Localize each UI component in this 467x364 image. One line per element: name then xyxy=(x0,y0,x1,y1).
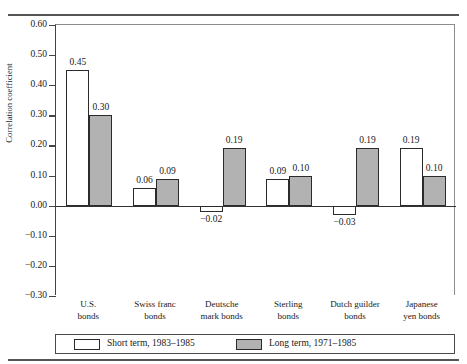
y-tick-label: −0.30 xyxy=(25,291,47,301)
bottom-rule xyxy=(8,359,459,361)
x-axis-label: Swiss francbonds xyxy=(134,299,176,322)
x-axis-label: Deutschemark bonds xyxy=(201,299,243,322)
legend-swatch xyxy=(74,339,100,350)
x-axis-label: Sterlingbonds xyxy=(274,299,303,322)
y-tick-label: 0.40 xyxy=(30,80,47,90)
y-tick-label: 0.30 xyxy=(30,111,47,121)
x-axis-labels: U.S.bondsSwiss francbondsDeutschemark bo… xyxy=(55,299,455,327)
bar-group: 0.060.09 xyxy=(123,25,190,296)
plot-area: 0.600.500.400.300.200.100.00−0.10−0.20−0… xyxy=(55,24,455,295)
bar[interactable] xyxy=(89,115,112,205)
bar-value-label: −0.02 xyxy=(200,215,222,225)
bar-value-label: 0.09 xyxy=(159,167,176,177)
bar-group: 0.450.30 xyxy=(56,25,123,296)
bar[interactable] xyxy=(333,206,356,215)
bar-value-label: 0.30 xyxy=(93,103,110,113)
y-tick-label: 0.60 xyxy=(30,20,47,30)
y-tick-mark xyxy=(49,236,56,237)
y-tick-mark xyxy=(49,266,56,267)
bar[interactable] xyxy=(133,188,156,206)
bar[interactable] xyxy=(223,148,246,205)
bar-group: −0.030.19 xyxy=(323,25,390,296)
y-tick-label: 0.20 xyxy=(30,141,47,151)
bar[interactable] xyxy=(423,176,446,206)
top-rule xyxy=(8,14,459,16)
bar[interactable] xyxy=(400,148,423,205)
y-tick-mark xyxy=(49,176,56,177)
bar-value-label: 0.09 xyxy=(270,167,287,177)
y-tick-label: −0.20 xyxy=(25,261,47,271)
bar-group: 0.090.10 xyxy=(256,25,323,296)
y-tick-mark xyxy=(49,145,56,146)
figure: Correlation coefficient 0.600.500.400.30… xyxy=(0,0,467,364)
x-axis-label: Dutch guilderbonds xyxy=(330,299,380,322)
legend-label: Long term, 1971–1985 xyxy=(269,339,356,349)
bar-value-label: 0.10 xyxy=(293,164,310,174)
bar[interactable] xyxy=(266,179,289,206)
bar[interactable] xyxy=(200,206,223,212)
y-tick-mark xyxy=(49,115,56,116)
bar[interactable] xyxy=(156,179,179,206)
y-tick-label: −0.10 xyxy=(25,231,47,241)
bar-value-label: 0.45 xyxy=(70,58,87,68)
y-tick-label: 0.50 xyxy=(30,50,47,60)
y-tick-mark xyxy=(49,85,56,86)
legend-item[interactable]: Short term, 1983–1985 xyxy=(74,339,195,350)
bar-group: 0.190.10 xyxy=(389,25,456,296)
bar-value-label: 0.06 xyxy=(136,176,153,186)
y-tick-mark xyxy=(49,55,56,56)
bar-value-label: 0.19 xyxy=(359,136,376,146)
x-axis-label: Japaneseyen bonds xyxy=(403,299,440,322)
bar[interactable] xyxy=(66,70,89,206)
bar[interactable] xyxy=(356,148,379,205)
bar-value-label: 0.10 xyxy=(426,164,443,174)
bar-value-label: −0.03 xyxy=(333,218,355,228)
bars-layer: 0.450.300.060.09−0.020.190.090.10−0.030.… xyxy=(56,25,456,296)
y-tick-label: 0.00 xyxy=(30,201,47,211)
bar-value-label: 0.19 xyxy=(226,136,243,146)
x-axis-label: U.S.bonds xyxy=(78,299,100,322)
y-tick-mark xyxy=(49,206,56,207)
y-axis-title: Correlation coefficient xyxy=(4,43,14,163)
y-tick-label: 0.10 xyxy=(30,171,47,181)
bar-value-label: 0.19 xyxy=(403,136,420,146)
bar-group: −0.020.19 xyxy=(189,25,256,296)
legend-label: Short term, 1983–1985 xyxy=(107,339,195,349)
bar[interactable] xyxy=(289,176,312,206)
chart-legend: Short term, 1983–1985Long term, 1971–198… xyxy=(55,334,455,354)
y-tick-mark xyxy=(49,296,56,297)
y-tick-mark xyxy=(49,25,56,26)
legend-item[interactable]: Long term, 1971–1985 xyxy=(236,339,356,350)
legend-swatch xyxy=(236,339,262,350)
